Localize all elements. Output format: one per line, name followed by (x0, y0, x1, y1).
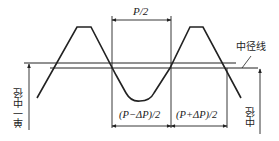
thread-profile (37, 27, 241, 101)
single-pitch-diameter-label: 单一中径 (14, 88, 24, 128)
half-pitch-label: P/2 (133, 6, 148, 17)
pitch-diameter-label: 中径 (246, 107, 256, 127)
minus-delta-label: (P−ΔP)/2 (119, 110, 160, 121)
pitch-line-leader (242, 56, 251, 68)
pitch-line-label: 中径线 (236, 42, 266, 52)
plus-delta-label: (P+ΔP)/2 (176, 110, 217, 121)
